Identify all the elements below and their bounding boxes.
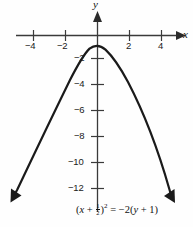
equation-annotation: (x + 12)2 = −2(y + 1) <box>76 203 158 218</box>
parabola-figure: −4 −2 2 4 −2 −4 −6 −8 −10 −12 x y (x + 1… <box>0 0 193 227</box>
y-tick-label-neg6: −6 <box>74 104 84 115</box>
coordinate-plane-svg <box>0 0 193 227</box>
equation-equals: = <box>108 204 119 215</box>
equation-fraction: 12 <box>96 203 100 218</box>
y-tick-label-neg12: −12 <box>68 182 84 193</box>
x-tick-label-2: 2 <box>126 40 131 51</box>
y-tick-label-neg8: −8 <box>74 130 84 141</box>
equation-plus2: + <box>138 204 149 215</box>
y-axis-label: y <box>93 0 98 10</box>
y-tick-label-neg10: −10 <box>68 156 84 167</box>
x-tick-label-neg4: −4 <box>25 40 35 51</box>
x-tick-label-neg2: −2 <box>57 40 67 51</box>
equation-close-paren2: ) <box>155 204 159 215</box>
equation-plus: + <box>84 204 95 215</box>
x-axis-label: x <box>183 28 188 40</box>
y-tick-label-neg4: −4 <box>74 78 84 89</box>
parabola-curve <box>15 46 171 195</box>
equation-coefficient: −2 <box>119 204 130 215</box>
fraction-denominator: 2 <box>96 210 100 217</box>
y-tick-label-neg2: −2 <box>74 52 84 63</box>
y-axis-arrowhead <box>93 11 102 22</box>
x-tick-label-4: 4 <box>158 40 163 51</box>
